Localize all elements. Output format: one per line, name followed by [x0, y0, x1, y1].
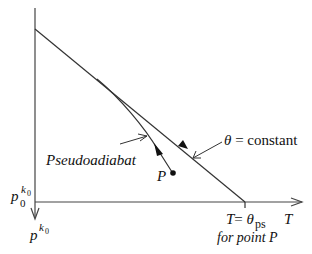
pseudoadiabat-arrowhead-icon — [154, 143, 163, 156]
y-origin-sub: 0 — [20, 197, 26, 209]
y-axis-label-sup-sub: 0 — [45, 227, 49, 236]
y-axis-label: p — [29, 227, 38, 243]
intercept-note: for point P — [217, 230, 278, 245]
x-axis-label: T — [284, 211, 294, 227]
intercept-label: T= θ — [226, 211, 255, 227]
theta-pointer — [193, 142, 222, 158]
y-origin-sup-sub: 0 — [27, 189, 31, 198]
point-p-marker — [170, 170, 176, 176]
y-origin-label: p — [10, 188, 19, 204]
pseudoadiabat-pointer — [120, 136, 147, 144]
theta-constant-line — [35, 29, 245, 202]
point-p-label: P — [156, 168, 166, 184]
pseudoadiabat-label: Pseudoadiabat — [45, 152, 137, 168]
theta-constant-label: θ = constant — [224, 132, 298, 148]
intercept-label-sub: ps — [255, 217, 266, 231]
diagram-canvas: Pseudoadiabat θ = constant P p 0 k 0 p k… — [0, 0, 312, 254]
